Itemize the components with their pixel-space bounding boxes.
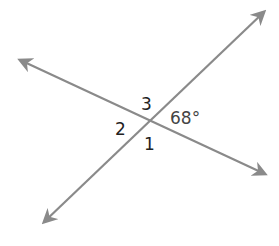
angle-label-68-degrees: 68° [170,108,200,128]
angle-label-2: 2 [115,119,126,139]
line-b [44,12,264,222]
diagram-canvas: 3 2 1 68° [0,0,279,246]
intersecting-lines-diagram: 3 2 1 68° [0,0,279,246]
line-a [20,60,265,174]
angle-label-3: 3 [141,94,152,114]
angle-label-1: 1 [144,134,155,154]
